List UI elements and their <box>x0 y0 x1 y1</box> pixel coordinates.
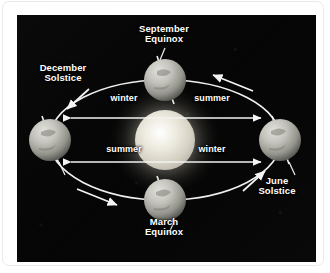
earth-sphere-june <box>259 119 301 161</box>
orbit-arrow-top-right <box>213 75 253 91</box>
earth-sphere-december <box>29 119 71 161</box>
seasons-diagram-panel: September Equinox December Solstice June… <box>17 15 316 262</box>
earth-sphere-march <box>144 179 186 221</box>
label-december-solstice: December Solstice <box>17 63 111 84</box>
earth-june-solstice <box>259 116 301 164</box>
label-september-equinox: September Equinox <box>109 24 219 45</box>
leader-line-june <box>289 162 295 175</box>
label-season-winter-south: winter <box>177 145 247 155</box>
orbit-arrow-bottom-left <box>77 189 117 205</box>
label-season-summer-north: summer <box>177 94 247 104</box>
label-season-winter-north: winter <box>89 94 159 104</box>
label-june-solstice: June Solstice <box>229 176 316 197</box>
label-march-equinox: March Equinox <box>109 217 219 238</box>
figure-frame: September Equinox December Solstice June… <box>0 0 330 273</box>
orbit-arrow-top-left <box>67 89 89 109</box>
sun-disc <box>135 110 195 170</box>
earth-december-solstice <box>29 116 71 164</box>
label-season-summer-south: summer <box>89 145 159 155</box>
leader-line-september <box>160 48 165 60</box>
